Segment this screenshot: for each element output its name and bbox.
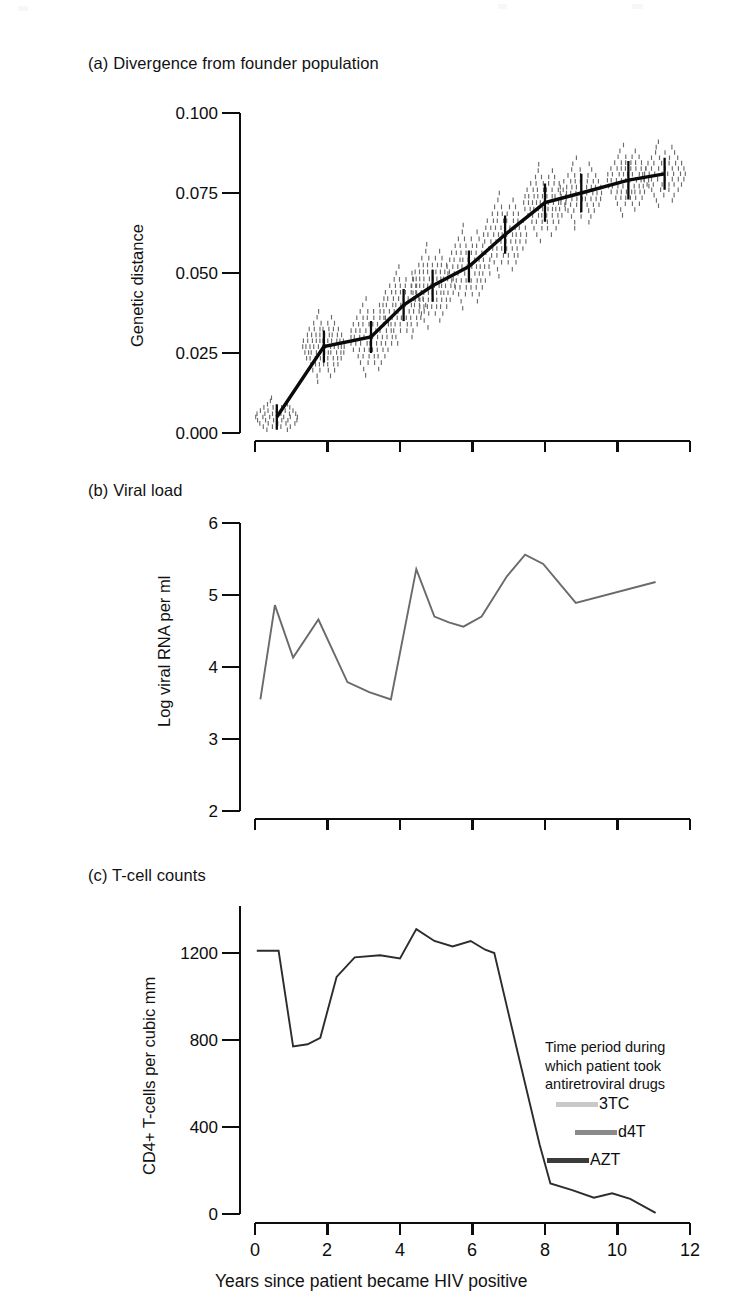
legend-swatch-azt-icon: [547, 1158, 589, 1163]
legend-caption-line-3: antiretroviral drugs: [545, 1075, 665, 1094]
xtick-8: 8: [525, 1240, 565, 1261]
legend-label-d4t: d4T: [618, 1123, 646, 1140]
legend-label-3tc: 3TC: [599, 1095, 629, 1112]
figure-root: (a) Divergence from founder population G…: [0, 0, 736, 1301]
legend-entry-3tc: 3TC: [556, 1095, 629, 1113]
xtick-0: 0: [235, 1240, 275, 1261]
legend-caption-line-2: which patient took: [545, 1057, 665, 1076]
legend-entry-d4t: d4T: [575, 1123, 646, 1141]
xtick-2: 2: [307, 1240, 347, 1261]
legend-label-azt: AZT: [590, 1151, 620, 1168]
legend-caption: Time period during which patient took an…: [545, 1038, 665, 1094]
legend-entry-azt: AZT: [547, 1151, 620, 1169]
x-axis-label: Years since patient became HIV positive: [215, 1271, 528, 1292]
xtick-12: 12: [670, 1240, 710, 1261]
legend-swatch-3tc-icon: [556, 1102, 598, 1107]
xtick-10: 10: [597, 1240, 637, 1261]
legend-swatch-d4t-icon: [575, 1130, 617, 1135]
legend-caption-line-1: Time period during: [545, 1038, 665, 1057]
xtick-4: 4: [380, 1240, 420, 1261]
xtick-6: 6: [452, 1240, 492, 1261]
